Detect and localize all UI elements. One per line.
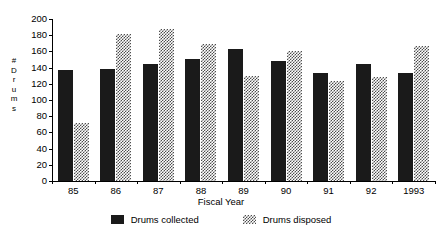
plot-area: 020406080100120140160180200 858687888990… (52, 19, 435, 181)
x-tick-label: 86 (111, 185, 122, 196)
y-tick-mark (49, 19, 52, 20)
bar-collected-92 (356, 64, 371, 181)
legend-item-disposed[interactable]: Drums disposed (243, 214, 332, 225)
y-tick-label: 100 (23, 95, 47, 105)
x-tick-label: 92 (366, 185, 377, 196)
bar-collected-86 (100, 69, 115, 181)
x-tick-label: 91 (323, 185, 334, 196)
bar-collected-91 (313, 73, 328, 181)
x-tick-mark (265, 181, 266, 184)
bar-collected-87 (143, 64, 158, 181)
x-tick-mark (435, 181, 436, 184)
bar-disposed-89 (244, 76, 259, 181)
y-tick-label: 140 (23, 63, 47, 73)
y-tick-label: 80 (23, 111, 47, 121)
x-tick-label: 90 (281, 185, 292, 196)
x-tick-label: 89 (238, 185, 249, 196)
y-tick-mark (49, 165, 52, 166)
x-tick-mark (52, 181, 53, 184)
y-axis-title-char: # (6, 56, 22, 66)
bar-collected-1993 (398, 73, 413, 181)
y-tick-label: 20 (23, 160, 47, 170)
y-axis-title-char: u (6, 85, 22, 95)
x-tick-mark (350, 181, 351, 184)
y-axis-title-char: D (6, 66, 22, 76)
x-tick-mark (180, 181, 181, 184)
x-axis-line (52, 181, 436, 182)
y-tick-mark (49, 84, 52, 85)
y-axis-title: #Drums (6, 56, 22, 113)
bar-disposed-88 (201, 44, 216, 181)
x-tick-label: 85 (68, 185, 79, 196)
bar-collected-90 (271, 61, 286, 181)
y-axis-title-char: r (6, 75, 22, 85)
bar-collected-89 (228, 49, 243, 181)
y-tick-mark (49, 116, 52, 117)
bar-disposed-87 (159, 29, 174, 181)
y-tick-mark (49, 68, 52, 69)
y-tick-mark (49, 149, 52, 150)
y-axis-title-char: m (6, 94, 22, 104)
bar-collected-85 (58, 70, 73, 181)
y-tick-label: 200 (23, 14, 47, 24)
legend-label: Drums collected (131, 214, 199, 225)
bar-disposed-92 (372, 77, 387, 181)
bar-disposed-1993 (414, 46, 429, 181)
bar-disposed-90 (287, 51, 302, 181)
y-tick-label: 120 (23, 79, 47, 89)
bar-disposed-91 (329, 81, 344, 181)
y-tick-label: 180 (23, 30, 47, 40)
x-axis-title: Fiscal Year (0, 196, 442, 207)
y-tick-mark (49, 100, 52, 101)
y-axis-title-char: s (6, 104, 22, 114)
legend-swatch-disposed-icon (243, 215, 256, 224)
y-tick-label: 40 (23, 144, 47, 154)
bar-disposed-86 (116, 34, 131, 181)
chart-legend: Drums collectedDrums disposed (0, 214, 442, 225)
x-tick-mark (95, 181, 96, 184)
x-tick-label: 1993 (403, 185, 424, 196)
x-tick-label: 88 (196, 185, 207, 196)
x-tick-mark (392, 181, 393, 184)
bar-disposed-85 (74, 123, 89, 181)
y-tick-mark (49, 35, 52, 36)
y-tick-label: 160 (23, 47, 47, 57)
bar-collected-88 (185, 59, 200, 181)
x-tick-mark (137, 181, 138, 184)
x-tick-label: 87 (153, 185, 164, 196)
legend-swatch-collected-icon (111, 215, 124, 224)
legend-label: Drums disposed (263, 214, 332, 225)
y-tick-mark (49, 51, 52, 52)
y-tick-label: 0 (23, 176, 47, 186)
x-tick-mark (222, 181, 223, 184)
y-tick-mark (49, 132, 52, 133)
legend-item-collected[interactable]: Drums collected (111, 214, 199, 225)
bar-chart: #Drums 020406080100120140160180200 85868… (0, 0, 442, 241)
x-tick-mark (307, 181, 308, 184)
y-tick-label: 60 (23, 128, 47, 138)
